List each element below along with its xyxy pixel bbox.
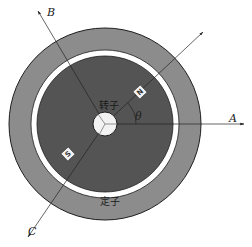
motor-diagram: N S 转子 定子 θ A B C (0, 0, 252, 247)
theta-label: θ (135, 110, 142, 123)
stator-label: 定子 (100, 195, 120, 207)
axis-c-label: C (28, 225, 37, 238)
axis-b-label: B (46, 6, 55, 19)
rotor-label: 转子 (99, 99, 119, 111)
axis-a-label: A (228, 112, 237, 125)
